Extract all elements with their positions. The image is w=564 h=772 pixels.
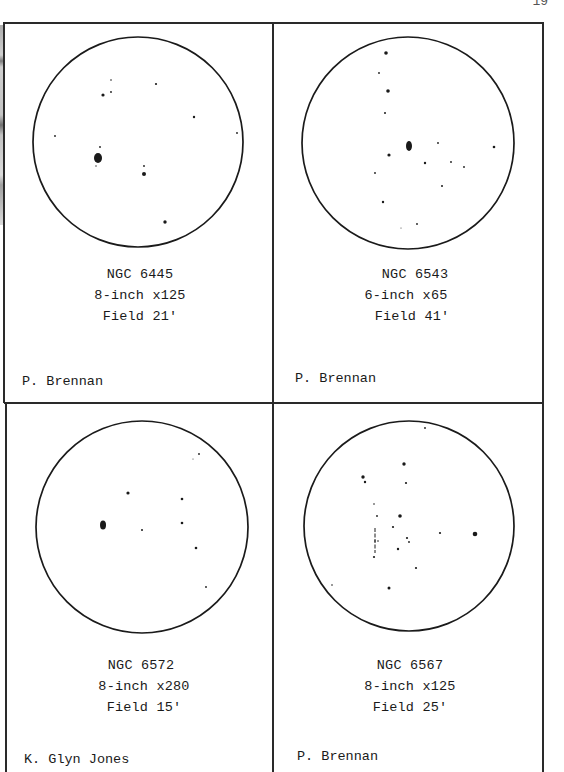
star-marker bbox=[376, 515, 378, 517]
panel-2-instrument: 6-inch x65 bbox=[326, 285, 486, 306]
star-marker bbox=[450, 161, 452, 163]
star-marker bbox=[405, 482, 407, 484]
star-marker bbox=[373, 503, 375, 505]
nebula-marker bbox=[406, 141, 412, 151]
star-marker bbox=[101, 93, 104, 96]
star-marker bbox=[193, 459, 194, 460]
panel-1-instrument: 8-inch x125 bbox=[60, 285, 220, 306]
star-marker bbox=[364, 481, 366, 483]
panel-4-field-sketch bbox=[304, 421, 514, 631]
panel-4-object: NGC 6567 bbox=[330, 655, 490, 676]
panel-4-observer: P. Brennan bbox=[297, 749, 378, 764]
star-marker bbox=[143, 165, 145, 167]
panel-2-observer: P. Brennan bbox=[295, 371, 376, 386]
star-marker bbox=[99, 146, 101, 148]
star-marker bbox=[463, 166, 465, 168]
star-marker bbox=[388, 587, 391, 590]
star-marker bbox=[439, 532, 441, 534]
star-marker bbox=[126, 491, 129, 494]
star-marker bbox=[424, 162, 426, 164]
star-marker bbox=[54, 135, 56, 137]
star-marker bbox=[110, 79, 112, 81]
star-marker bbox=[331, 584, 333, 586]
eyepiece-field-circle bbox=[304, 421, 514, 631]
nebula-marker bbox=[473, 532, 478, 537]
panel-3-observer: K. Glyn Jones bbox=[24, 752, 129, 767]
eyepiece-field-circle bbox=[33, 37, 243, 247]
star-marker bbox=[181, 522, 184, 525]
panel-4-field: Field 25' bbox=[330, 697, 490, 718]
nebula-marker bbox=[100, 521, 106, 530]
eyepiece-field-circle bbox=[36, 421, 248, 633]
panel-3-field-sketch bbox=[36, 421, 248, 633]
panel-2-field-sketch bbox=[302, 37, 514, 249]
star-marker bbox=[195, 547, 198, 550]
star-marker bbox=[142, 172, 146, 176]
star-marker bbox=[387, 153, 390, 156]
panel-1-observer: P. Brennan bbox=[22, 374, 103, 389]
star-marker bbox=[415, 567, 417, 569]
star-marker bbox=[193, 116, 195, 118]
star-marker bbox=[493, 146, 496, 149]
panel-1-field-sketch bbox=[33, 37, 243, 247]
star-marker bbox=[437, 142, 439, 144]
star-marker bbox=[386, 89, 390, 93]
star-marker bbox=[398, 514, 402, 518]
star-marker bbox=[401, 228, 402, 229]
star-marker bbox=[408, 541, 410, 543]
star-marker bbox=[205, 586, 207, 588]
star-marker bbox=[361, 475, 364, 478]
star-marker bbox=[155, 83, 157, 85]
star-marker bbox=[95, 165, 96, 166]
star-marker bbox=[406, 537, 408, 539]
nebula-marker bbox=[94, 153, 102, 163]
panel-3-object: NGC 6572 bbox=[64, 655, 224, 676]
star-marker bbox=[402, 462, 405, 465]
star-marker bbox=[392, 526, 394, 528]
star-marker bbox=[416, 223, 418, 225]
panel-2-field: Field 41' bbox=[326, 306, 486, 327]
star-marker bbox=[374, 172, 376, 174]
panel-4-instrument: 8-inch x125 bbox=[330, 676, 490, 697]
star-marker bbox=[378, 72, 380, 74]
star-marker bbox=[377, 540, 379, 542]
panel-3-field: Field 15' bbox=[64, 697, 224, 718]
star-marker bbox=[236, 132, 238, 134]
panel-2-object: NGC 6543 bbox=[326, 264, 486, 285]
star-marker bbox=[441, 185, 443, 187]
star-marker bbox=[163, 220, 166, 223]
panel-3-caption: NGC 6572 8-inch x280 Field 15' bbox=[64, 655, 224, 718]
star-marker bbox=[198, 453, 200, 455]
star-marker bbox=[384, 112, 386, 114]
panel-1-caption: NGC 6445 8-inch x125 Field 21' bbox=[60, 264, 220, 327]
star-marker bbox=[181, 498, 184, 501]
star-marker bbox=[397, 548, 399, 550]
star-marker bbox=[382, 201, 384, 203]
star-marker bbox=[373, 556, 375, 558]
panel-4-caption: NGC 6567 8-inch x125 Field 25' bbox=[330, 655, 490, 718]
star-marker bbox=[110, 91, 112, 93]
star-marker bbox=[141, 529, 143, 531]
panel-3-instrument: 8-inch x280 bbox=[64, 676, 224, 697]
panel-2-caption: NGC 6543 6-inch x65 Field 41' bbox=[326, 264, 486, 327]
star-marker bbox=[384, 51, 388, 55]
panel-1-field: Field 21' bbox=[60, 306, 220, 327]
star-marker bbox=[424, 427, 426, 429]
panel-1-object: NGC 6445 bbox=[60, 264, 220, 285]
